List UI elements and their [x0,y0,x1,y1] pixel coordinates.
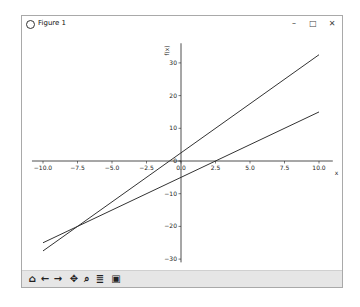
x-tick-label: 5.0 [245,164,255,171]
figure-window: Figure 1 – □ ✕ −10.0−7.5−5.0−2.50.02.55.… [21,15,343,288]
zoom-button[interactable]: ⌕ [81,273,93,285]
x-tick-label: 10.0 [312,164,326,171]
x-tick-label: −5.0 [105,164,120,171]
save-icon: ▣ [111,273,120,284]
title-bar: Figure 1 – □ ✕ [22,16,342,33]
back-button[interactable]: ← [39,273,51,285]
y-tick-label: −20 [164,222,177,229]
maximize-button[interactable]: □ [305,18,321,30]
zoom-icon: ⌕ [84,273,90,284]
matplotlib-logo-icon [26,20,35,29]
y-tick-label: −30 [164,255,177,262]
home-button[interactable]: ⌂ [26,273,38,285]
y-tick-label: −10 [164,190,177,197]
configure-subplots-button[interactable]: ≣ [94,273,106,285]
x-tick-label: 7.5 [280,164,290,171]
forward-button[interactable]: → [52,273,64,285]
y-tick-label: 20 [169,92,177,99]
back-icon: ← [41,273,49,284]
x-tick-label: −7.5 [70,164,85,171]
y-tick-label: 30 [169,59,177,66]
y-tick-label: 10 [169,124,177,131]
home-icon: ⌂ [28,273,35,284]
pan-icon: ✥ [70,273,78,284]
x-tick-label: 2.5 [211,164,221,171]
save-button[interactable]: ▣ [110,273,122,285]
close-button[interactable]: ✕ [324,18,340,30]
x-tick-label: −10.0 [34,164,53,171]
x-tick-label: −2.5 [139,164,154,171]
pan-button[interactable]: ✥ [68,273,80,285]
navigation-toolbar: ⌂←→✥⌕≣▣ [22,270,342,287]
y-axis-label: f(x) [163,45,170,55]
plot-canvas[interactable]: −10.0−7.5−5.0−2.50.02.55.07.510.0−30−20−… [22,33,342,271]
window-title: Figure 1 [38,19,66,27]
forward-icon: → [54,273,62,284]
x-tick-label: 0.0 [176,164,186,171]
minimize-button[interactable]: – [286,18,302,30]
x-axis-label: x [335,169,339,176]
configure-subplots-icon: ≣ [96,273,104,284]
